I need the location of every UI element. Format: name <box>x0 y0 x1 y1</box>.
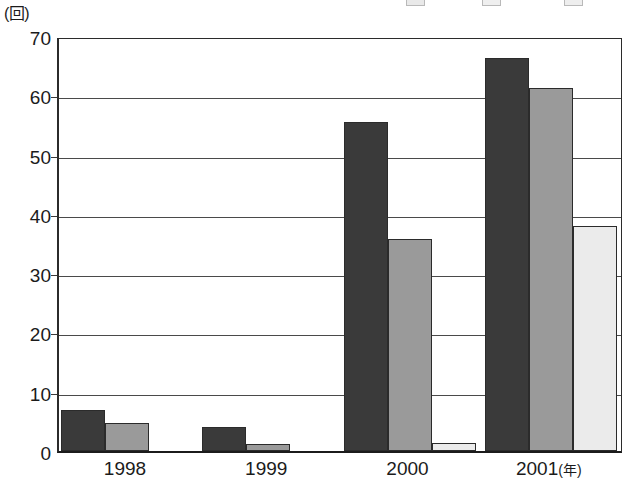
bar-1998-series-2 <box>105 423 149 451</box>
y-tick-label-20: 20 <box>5 325 51 344</box>
x-tick-label-1999: 1999 <box>206 459 326 478</box>
x-tick-label-2000: 2000 <box>348 459 468 478</box>
y-tick-label-40: 40 <box>5 207 51 226</box>
bar-2000-series-1 <box>344 122 388 451</box>
legend-swatch-1 <box>406 0 425 6</box>
bar-2001-series-1 <box>485 58 529 451</box>
y-tick-label-50: 50 <box>5 148 51 167</box>
x-tick-label-text: 1998 <box>104 458 146 479</box>
x-tick-label-text: 2001 <box>516 458 558 479</box>
x-tick-label-1998: 1998 <box>65 459 185 478</box>
bar-chart: (回) 010203040506070 1998199920002001(年) <box>0 0 637 496</box>
plot-area <box>57 38 622 453</box>
y-axis-unit-label: (回) <box>4 6 29 22</box>
clipped-legend <box>404 0 637 6</box>
bar-1999-series-1 <box>202 427 246 451</box>
y-tick-label-70: 70 <box>5 29 51 48</box>
bar-1999-series-2 <box>246 444 290 451</box>
x-tick-label-text: 1999 <box>245 458 287 479</box>
legend-swatch-2 <box>482 0 501 6</box>
x-tick-label-text: 2000 <box>386 458 428 479</box>
bars-layer <box>59 39 621 451</box>
y-tick-label-30: 30 <box>5 266 51 285</box>
y-tick-label-0: 0 <box>5 444 51 463</box>
bar-2000-series-3 <box>432 443 476 451</box>
x-axis-unit-label: (年) <box>558 462 581 478</box>
y-tick-label-60: 60 <box>5 88 51 107</box>
x-tick-label-2001: 2001(年) <box>489 459 609 478</box>
bar-2001-series-3 <box>573 226 617 451</box>
bar-1998-series-1 <box>61 410 105 452</box>
y-tick-label-10: 10 <box>5 385 51 404</box>
y-axis-ticks: 010203040506070 <box>0 38 51 453</box>
legend-swatch-3 <box>564 0 583 6</box>
bar-2000-series-2 <box>388 239 432 451</box>
x-axis-labels: 1998199920002001(年) <box>57 459 622 489</box>
bar-2001-series-2 <box>529 88 573 451</box>
